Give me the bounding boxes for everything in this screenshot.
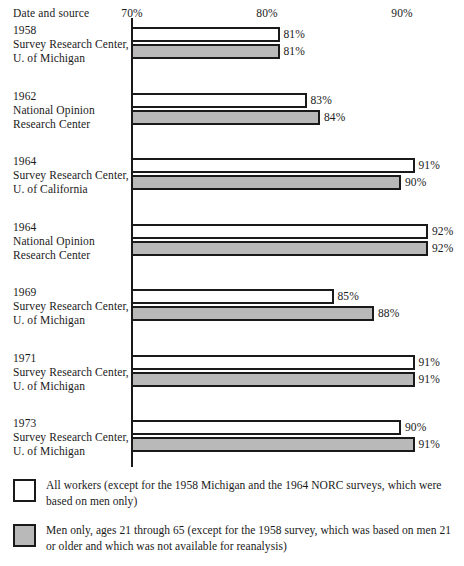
bar-group-year: 1964 <box>13 154 129 168</box>
bar-group-year: 1964 <box>13 220 129 234</box>
bar-value-men-only: 84% <box>324 110 345 125</box>
bar-all-workers <box>131 224 428 239</box>
bar-group: 1964Survey Research Center,U. of Califor… <box>0 158 464 192</box>
bar-group-label: 1971Survey Research Center,U. of Michiga… <box>13 351 129 394</box>
bar-group-source-line-1: Survey Research Center, <box>13 299 129 313</box>
bar-pair: 91%90% <box>131 158 461 190</box>
bar-group: 1962National OpinionResearch Center83%84… <box>0 93 464 127</box>
bar-men-only <box>131 241 428 256</box>
bar-group-label: 1973Survey Research Center,U. of Michiga… <box>13 416 129 459</box>
bar-chart: Date and source 70%80%90% 1958Survey Res… <box>0 0 464 566</box>
bar-group: 1973Survey Research Center,U. of Michiga… <box>0 420 464 454</box>
bar-group-source-line-2: Research Center <box>13 248 129 262</box>
bar-value-all-workers: 85% <box>338 289 359 304</box>
bar-men-only <box>131 175 401 190</box>
bar-group-source-line-1: National Opinion <box>13 234 129 248</box>
bar-all-workers <box>131 420 401 435</box>
bar-group: 1964National OpinionResearch Center92%92… <box>0 224 464 258</box>
bar-group-year: 1969 <box>13 285 129 299</box>
bar-value-men-only: 92% <box>432 241 453 256</box>
legend-swatch-white <box>13 479 36 502</box>
legend-item: All workers (except for the 1958 Michiga… <box>0 479 464 511</box>
legend-label: Men only, ages 21 through 65 (except for… <box>46 523 458 554</box>
bar-group-source-line-1: Survey Research Center, <box>13 37 129 51</box>
legend-item: Men only, ages 21 through 65 (except for… <box>0 524 464 556</box>
bar-men-only <box>131 110 320 125</box>
bar-pair: 83%84% <box>131 93 461 125</box>
bar-group-source-line-1: Survey Research Center, <box>13 365 129 379</box>
bar-pair: 85%88% <box>131 289 461 321</box>
bar-value-all-workers: 81% <box>284 27 305 42</box>
bar-group-year: 1971 <box>13 351 129 365</box>
bar-men-only <box>131 44 280 59</box>
bar-all-workers <box>131 93 307 108</box>
bar-pair: 81%81% <box>131 27 461 59</box>
bar-men-only <box>131 437 415 452</box>
bar-pair: 92%92% <box>131 224 461 256</box>
bar-value-all-workers: 83% <box>311 93 332 108</box>
bar-group-label: 1958Survey Research Center,U. of Michiga… <box>13 23 129 66</box>
bar-all-workers <box>131 355 415 370</box>
bar-group-source-line-2: U. of Michigan <box>13 379 129 393</box>
bar-group-year: 1958 <box>13 23 129 37</box>
bar-group-source-line-2: Research Center <box>13 117 129 131</box>
bar-group-source-line-1: National Opinion <box>13 103 129 117</box>
x-axis-tick-label: 90% <box>391 7 412 19</box>
bar-men-only <box>131 372 415 387</box>
bar-value-all-workers: 91% <box>419 158 440 173</box>
bar-value-men-only: 81% <box>284 44 305 59</box>
row-header-label: Date and source <box>13 7 89 19</box>
bar-group: 1958Survey Research Center,U. of Michiga… <box>0 27 464 61</box>
bar-group-source-line-1: Survey Research Center, <box>13 430 129 444</box>
bar-all-workers <box>131 158 415 173</box>
bar-value-men-only: 91% <box>419 437 440 452</box>
bar-group-label: 1964National OpinionResearch Center <box>13 220 129 263</box>
bar-group-source-line-2: U. of Michigan <box>13 444 129 458</box>
bar-group: 1969Survey Research Center,U. of Michiga… <box>0 289 464 323</box>
x-axis-tick-label: 80% <box>256 7 277 19</box>
bar-group-source-line-2: U. of Michigan <box>13 51 129 65</box>
bar-value-men-only: 91% <box>419 372 440 387</box>
bar-value-men-only: 88% <box>378 306 399 321</box>
bar-group-label: 1969Survey Research Center,U. of Michiga… <box>13 285 129 328</box>
bar-group-year: 1962 <box>13 89 129 103</box>
bar-group-year: 1973 <box>13 416 129 430</box>
bar-value-all-workers: 90% <box>405 420 426 435</box>
legend-swatch-gray <box>13 524 36 547</box>
bar-group-source-line-2: U. of Michigan <box>13 313 129 327</box>
bar-pair: 90%91% <box>131 420 461 452</box>
bar-group-label: 1962National OpinionResearch Center <box>13 89 129 132</box>
bar-value-all-workers: 91% <box>419 355 440 370</box>
bar-pair: 91%91% <box>131 355 461 387</box>
bar-group-source-line-2: U. of California <box>13 182 129 196</box>
bar-group-label: 1964Survey Research Center,U. of Califor… <box>13 154 129 197</box>
bar-all-workers <box>131 289 334 304</box>
bar-value-all-workers: 92% <box>432 224 453 239</box>
bar-group: 1971Survey Research Center,U. of Michiga… <box>0 355 464 389</box>
bar-all-workers <box>131 27 280 42</box>
x-axis-tick-mark <box>131 18 133 25</box>
bar-value-men-only: 90% <box>405 175 426 190</box>
legend-label: All workers (except for the 1958 Michiga… <box>46 478 458 509</box>
bar-group-source-line-1: Survey Research Center, <box>13 168 129 182</box>
bar-men-only <box>131 306 374 321</box>
